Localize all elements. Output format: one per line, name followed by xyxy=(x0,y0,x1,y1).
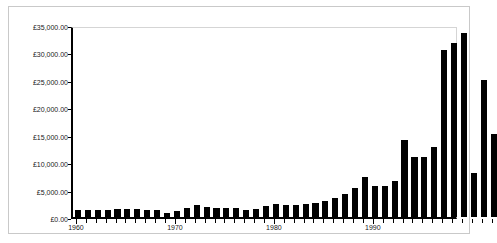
x-axis-tick-mark xyxy=(353,219,354,223)
y-axis-tick-label: £10,000.00 xyxy=(33,161,68,168)
x-axis-tick-mark xyxy=(185,219,186,223)
y-axis-tick-label: £0.00 xyxy=(50,216,68,223)
x-axis-tick-mark xyxy=(244,219,245,223)
x-axis-tick-mark xyxy=(412,219,413,223)
x-axis-tick-mark xyxy=(205,219,206,223)
x-axis-tick-mark xyxy=(155,219,156,223)
x-axis-tick-mark xyxy=(145,219,146,223)
y-axis-tick-label: £15,000.00 xyxy=(33,133,68,140)
bar xyxy=(441,50,447,217)
bar xyxy=(263,206,269,217)
x-axis-tick-mark xyxy=(452,219,453,223)
x-axis-tick-mark xyxy=(135,219,136,223)
bar xyxy=(303,204,309,217)
x-axis-tick-mark xyxy=(254,219,255,223)
bar xyxy=(164,213,170,217)
x-axis-tick-mark xyxy=(294,219,295,223)
bar xyxy=(342,194,348,217)
x-axis-tick-mark xyxy=(403,219,404,223)
x-axis-tick-mark xyxy=(472,219,473,223)
bar xyxy=(382,186,388,217)
bar xyxy=(471,173,477,217)
bar xyxy=(372,186,378,217)
y-axis-tick-label: £20,000.00 xyxy=(33,106,68,113)
x-axis-tick-mark xyxy=(165,219,166,223)
y-axis-tick-label: £5,000.00 xyxy=(37,188,68,195)
bar xyxy=(223,208,229,217)
x-axis-tick-mark xyxy=(422,219,423,223)
x-axis-tick-mark xyxy=(264,219,265,223)
bar xyxy=(461,33,467,217)
x-axis-tick-mark xyxy=(86,219,87,223)
bar xyxy=(362,177,368,217)
x-axis-tick-mark xyxy=(284,219,285,223)
x-axis-tick-mark xyxy=(462,219,463,223)
bar xyxy=(194,205,200,217)
bar xyxy=(174,211,180,217)
bar xyxy=(253,209,259,217)
x-axis-tick-mark xyxy=(323,219,324,223)
x-axis-tick-mark xyxy=(224,219,225,223)
y-axis-tick-label: £25,000.00 xyxy=(33,78,68,85)
x-axis-tick-mark xyxy=(234,219,235,223)
bar xyxy=(95,210,101,217)
chart-outer-frame: £0.00£5,000.00£10,000.00£15,000.00£20,00… xyxy=(8,6,470,234)
bar xyxy=(401,140,407,217)
bar xyxy=(352,188,358,217)
x-axis-tick-mark xyxy=(106,219,107,223)
bar xyxy=(154,210,160,217)
bar xyxy=(204,207,210,217)
y-axis-tick-label: £35,000.00 xyxy=(33,24,68,31)
x-axis-tick-mark xyxy=(432,219,433,223)
x-axis-tick-mark xyxy=(343,219,344,223)
x-axis-tick-label: 1970 xyxy=(167,224,183,231)
bar xyxy=(431,147,437,217)
x-axis-tick-mark xyxy=(96,219,97,223)
y-axis-tick-label: £30,000.00 xyxy=(33,51,68,58)
x-axis-tick-mark xyxy=(313,219,314,223)
bar xyxy=(213,208,219,217)
bar xyxy=(491,134,497,217)
x-axis-tick-mark xyxy=(333,219,334,223)
x-axis-tick-mark xyxy=(442,219,443,223)
plot-area xyxy=(71,27,457,219)
bar xyxy=(392,181,398,217)
x-axis-tick-mark xyxy=(125,219,126,223)
bar xyxy=(144,210,150,217)
x-axis-tick-mark xyxy=(482,219,483,223)
bar-series xyxy=(73,28,456,217)
x-axis-ticks xyxy=(71,219,457,223)
bar xyxy=(411,157,417,217)
bar xyxy=(273,204,279,217)
x-axis-tick-mark xyxy=(363,219,364,223)
bar xyxy=(481,80,487,217)
x-axis-tick-mark xyxy=(492,219,493,223)
x-axis-tick-mark xyxy=(383,219,384,223)
x-axis-tick-mark xyxy=(215,219,216,223)
bar xyxy=(233,208,239,217)
x-axis-tick-label: 1960 xyxy=(68,224,84,231)
bar xyxy=(184,208,190,217)
bar xyxy=(293,205,299,217)
bar xyxy=(134,209,140,217)
x-axis-tick-label: 1990 xyxy=(365,224,381,231)
x-axis-tick-label: 1980 xyxy=(266,224,282,231)
bar xyxy=(105,210,111,217)
bar xyxy=(312,203,318,217)
bar xyxy=(124,209,130,217)
x-axis-tick-mark xyxy=(393,219,394,223)
x-axis-tick-mark xyxy=(195,219,196,223)
bar xyxy=(332,198,338,217)
bar xyxy=(75,210,81,217)
x-axis-labels: 1960197019801990 xyxy=(71,224,457,236)
bar xyxy=(283,205,289,217)
bar xyxy=(85,210,91,217)
bar xyxy=(114,209,120,217)
x-axis-tick-mark xyxy=(116,219,117,223)
bar xyxy=(322,201,328,217)
y-axis-labels: £0.00£5,000.00£10,000.00£15,000.00£20,00… xyxy=(17,27,68,219)
bar xyxy=(421,157,427,217)
x-axis-tick-mark xyxy=(304,219,305,223)
bar xyxy=(243,210,249,217)
